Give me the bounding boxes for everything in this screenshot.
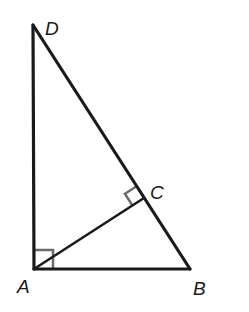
segment-ac bbox=[34, 198, 144, 269]
label-a: A bbox=[16, 276, 30, 297]
geometry-diagram: D C A B bbox=[0, 0, 249, 312]
label-b: B bbox=[193, 278, 206, 299]
label-d: D bbox=[45, 18, 59, 39]
segment-db bbox=[33, 25, 190, 269]
label-c: C bbox=[150, 182, 164, 203]
segment-ad bbox=[33, 25, 34, 269]
